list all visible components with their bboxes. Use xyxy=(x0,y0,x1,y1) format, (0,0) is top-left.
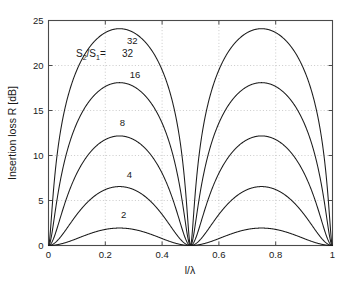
x-tick-label: 0.4 xyxy=(155,249,168,260)
chart-figure: 3216842 00.20.40.60.81 0510152025 l/λ In… xyxy=(0,0,350,287)
y-tick-label: 25 xyxy=(33,15,44,26)
curve-label-4: 4 xyxy=(127,169,132,180)
y-tick-label: 5 xyxy=(38,195,43,206)
curve-label-2: 2 xyxy=(121,209,126,220)
x-axis-title: l/λ xyxy=(185,264,196,276)
x-tick-label: 1 xyxy=(330,249,335,260)
insertion-loss-chart: 3216842 00.20.40.60.81 0510152025 l/λ In… xyxy=(0,0,350,287)
y-tick-label: 10 xyxy=(33,150,44,161)
y-axis-title: Insertion loss R [dB] xyxy=(6,86,18,180)
x-tick-label: 0.6 xyxy=(212,249,225,260)
curve-label-8: 8 xyxy=(120,117,125,128)
annotation-s2-s1: S2/S1= xyxy=(76,48,106,61)
y-tick-label: 0 xyxy=(38,240,43,251)
curve-label-32: 32 xyxy=(127,35,138,46)
annotation-value: 32 xyxy=(122,48,134,59)
x-tick-label: 0 xyxy=(46,249,51,260)
x-tick-label: 0.2 xyxy=(99,249,112,260)
y-tick-label: 15 xyxy=(33,105,44,116)
curve-label-16: 16 xyxy=(130,69,141,80)
y-tick-label: 20 xyxy=(33,60,44,71)
x-tick-label: 0.8 xyxy=(269,249,282,260)
